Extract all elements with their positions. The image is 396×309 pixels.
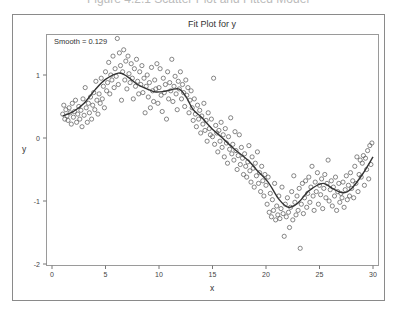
x-tick-label: 25	[316, 271, 324, 278]
x-tick-label: 30	[369, 271, 377, 278]
y-tick-label: 1	[36, 72, 40, 79]
x-tick-label: 0	[50, 271, 54, 278]
fit-plot-chart: Fit Plot for y -2-101 051015202530 Smoot…	[0, 0, 396, 309]
x-tick-label: 15	[209, 271, 217, 278]
plot-area	[47, 35, 379, 266]
y-tick-label: 0	[36, 135, 40, 142]
smooth-annotation: Smooth = 0.129	[54, 37, 107, 46]
y-tick-label: -1	[34, 198, 40, 205]
x-tick-label: 5	[104, 271, 108, 278]
x-tick-label: 20	[262, 271, 270, 278]
y-tick-label: -2	[34, 261, 40, 268]
chart-title: Fit Plot for y	[188, 19, 237, 29]
x-tick-label: 10	[155, 271, 163, 278]
